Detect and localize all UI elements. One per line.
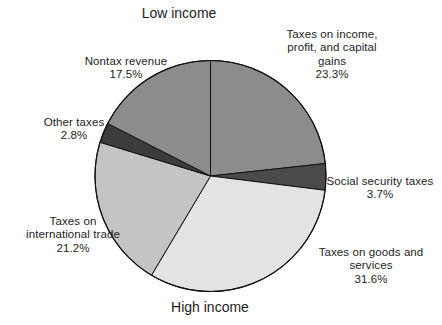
slice-label-other-taxes: Other taxes 2.8% bbox=[16, 102, 132, 156]
slice-label-income-percent: 23.3% bbox=[262, 68, 402, 82]
slice-label-international-trade: Taxes on international trade 21.2% bbox=[8, 201, 138, 269]
slice-label-other-taxes-text: Other taxes bbox=[44, 116, 105, 128]
slice-label-goods-services: Taxes on goods and services 31.6% bbox=[300, 232, 442, 300]
slice-label-goods-services-text: Taxes on goods and services bbox=[319, 246, 424, 272]
slice-label-income: Taxes on income, profit, and capital gai… bbox=[262, 14, 402, 95]
slice-label-income-text: Taxes on income, profit, and capital gai… bbox=[286, 28, 377, 67]
pie-chart-figure: Low income Taxes on income, profit, and … bbox=[0, 0, 442, 325]
slice-label-international-trade-percent: 21.2% bbox=[8, 242, 138, 256]
chart-bottom-title: High income bbox=[0, 299, 442, 315]
slice-label-international-trade-text: Taxes on international trade bbox=[26, 215, 120, 241]
slice-label-social-security: Social security taxes 3.7% bbox=[318, 161, 442, 215]
slice-label-social-security-percent: 3.7% bbox=[318, 188, 442, 202]
slice-label-nontax-revenue-text: Nontax revenue bbox=[85, 55, 168, 67]
slice-label-goods-services-percent: 31.6% bbox=[300, 273, 442, 287]
slice-label-social-security-text: Social security taxes bbox=[327, 175, 434, 187]
chart-bottom-title-text: High income bbox=[171, 299, 249, 315]
slice-label-other-taxes-percent: 2.8% bbox=[16, 129, 132, 143]
slice-label-nontax-revenue-percent: 17.5% bbox=[56, 68, 196, 82]
slice-label-nontax-revenue: Nontax revenue 17.5% bbox=[56, 41, 196, 95]
